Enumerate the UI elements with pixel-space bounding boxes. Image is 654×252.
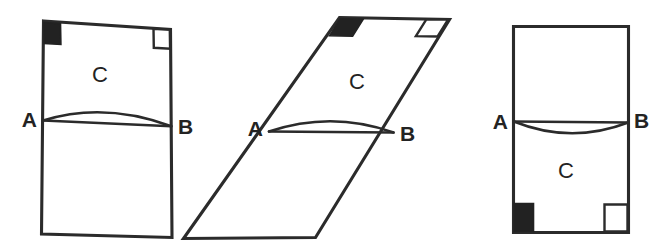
figure-right-label-c: C <box>558 158 574 183</box>
figure-right-filled-corner-marker-icon <box>514 204 533 232</box>
figure-right: A B C <box>0 0 654 252</box>
figure-right-open-corner-marker-icon <box>605 205 628 232</box>
figure-right-label-a: A <box>493 110 508 133</box>
figure-right-outline <box>514 27 629 233</box>
figure-right-chord-ab <box>514 122 628 123</box>
figure-sheet: A B C A B C <box>0 0 654 252</box>
figure-right-label-b: B <box>634 109 649 132</box>
